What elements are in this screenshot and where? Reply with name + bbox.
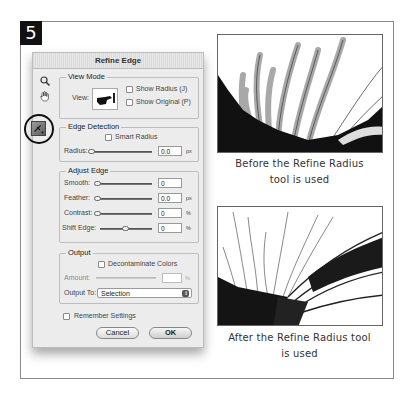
before-caption: Before the Refine Radius tool is used [212, 156, 387, 188]
show-radius-checkbox[interactable] [126, 86, 133, 93]
shift-edge-label: Shift Edge: [62, 224, 96, 231]
remember-settings-checkbox[interactable] [63, 313, 70, 320]
output-to-value: Selection [101, 290, 130, 297]
output-to-select[interactable]: Selection ⇕ [97, 288, 192, 298]
after-caption-line1: After the Refine Radius tool [212, 330, 387, 346]
smart-radius-checkbox[interactable] [105, 134, 112, 141]
amount-slider[interactable] [96, 277, 156, 279]
decontaminate-checkbox[interactable] [98, 261, 105, 268]
radius-input[interactable]: 0.0 [158, 146, 182, 156]
smooth-slider-thumb[interactable] [94, 181, 101, 186]
view-dropdown-arrow [113, 93, 115, 103]
step-number-badge: 5 [20, 21, 42, 45]
output-group: Output Decontaminate Colors Amount: % Ou… [59, 253, 199, 304]
smooth-label: Smooth: [64, 179, 90, 186]
shift-edge-input[interactable]: 0 [158, 223, 182, 233]
shift-edge-slider-thumb[interactable] [122, 226, 129, 231]
adjust-edge-label: Adjust Edge [66, 166, 110, 175]
feather-slider[interactable] [96, 198, 152, 200]
radius-slider[interactable] [90, 151, 152, 153]
output-to-label: Output To: [64, 289, 96, 296]
after-caption: After the Refine Radius tool is used [212, 330, 387, 362]
magnifier-icon[interactable] [39, 75, 51, 87]
hand-icon[interactable] [39, 90, 51, 102]
cancel-button[interactable]: Cancel [96, 327, 139, 339]
refine-edge-dialog: Refine Edge View Mode View: Show Radius … [32, 52, 204, 348]
radius-unit: px [186, 148, 192, 154]
feather-after-graphic [218, 207, 383, 326]
view-preview-icon [95, 92, 115, 108]
dialog-title: Refine Edge [33, 53, 203, 69]
decontaminate-label: Decontaminate Colors [108, 260, 177, 267]
before-image [217, 34, 383, 153]
tool-column [39, 75, 53, 105]
contrast-input[interactable]: 0 [158, 208, 182, 218]
feather-slider-thumb[interactable] [94, 196, 101, 201]
view-label: View: [72, 94, 89, 101]
smooth-input[interactable]: 0 [158, 178, 182, 188]
feather-label: Feather: [64, 194, 90, 201]
smart-radius-label: Smart Radius [115, 133, 157, 140]
view-mode-group: View Mode View: Show Radius (J) Show Ori… [59, 77, 199, 119]
contrast-slider[interactable] [96, 213, 152, 215]
contrast-unit: % [186, 210, 191, 216]
smooth-slider[interactable] [96, 183, 152, 185]
refine-radius-tool-icon[interactable] [31, 121, 46, 136]
contrast-slider-thumb[interactable] [94, 211, 101, 216]
edge-detection-group: Edge Detection Smart Radius Radius: 0.0 … [59, 127, 199, 162]
after-caption-line2: is used [212, 346, 387, 362]
select-stepper-icon: ⇕ [182, 290, 189, 297]
feather-before-graphic [218, 35, 383, 153]
show-radius-label: Show Radius (J) [136, 85, 187, 92]
contrast-label: Contrast: [64, 209, 92, 216]
amount-unit: % [185, 275, 190, 281]
edge-detection-label: Edge Detection [66, 122, 121, 131]
show-original-label: Show Original (P) [136, 98, 191, 105]
adjust-edge-group: Adjust Edge Smooth: 0 Feather: 0.0 px Co… [59, 171, 199, 243]
remember-settings-label: Remember Settings [74, 312, 136, 319]
before-caption-line1: Before the Refine Radius [212, 156, 387, 172]
ok-button[interactable]: OK [149, 327, 192, 339]
output-label: Output [66, 248, 93, 257]
amount-input[interactable] [162, 273, 182, 283]
feather-unit: px [186, 195, 192, 201]
feather-input[interactable]: 0.0 [158, 193, 182, 203]
show-original-checkbox[interactable] [126, 99, 133, 106]
view-mode-picker[interactable] [92, 88, 118, 110]
before-caption-line2: tool is used [212, 172, 387, 188]
after-image [217, 206, 383, 326]
radius-slider-thumb[interactable] [88, 149, 95, 154]
radius-label: Radius: [64, 147, 88, 154]
shift-edge-unit: % [186, 225, 191, 231]
amount-label: Amount: [64, 274, 90, 281]
view-mode-label: View Mode [66, 72, 107, 81]
